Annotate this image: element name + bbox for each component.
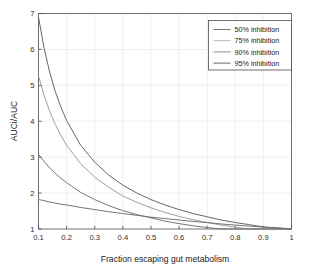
x-tick-label: 0.5 <box>146 233 157 242</box>
y-tick-label: 5 <box>30 81 34 90</box>
x-tick-label: 0.6 <box>174 233 185 242</box>
x-tick-label: 1 <box>289 233 293 242</box>
x-tick-label: 0.4 <box>118 233 129 242</box>
y-axis-title: AUCi/AUC <box>9 101 19 142</box>
y-tick-label: 7 <box>30 9 34 18</box>
legend-item-label[interactable]: 75% inhibition <box>235 36 280 45</box>
x-tick-label: 0.1 <box>33 233 44 242</box>
legend-item-label[interactable]: 90% inhibition <box>235 48 280 57</box>
legend[interactable]: 50% inhibition75% inhibition90% inhibiti… <box>209 21 292 71</box>
legend-item-label[interactable]: 50% inhibition <box>235 25 280 34</box>
y-tick-label: 2 <box>30 189 34 198</box>
y-tick-label: 3 <box>30 153 34 162</box>
figure-container: 0.10.20.30.40.50.60.70.80.91 1234567 Fra… <box>0 0 319 271</box>
x-tick-label: 0.3 <box>89 233 100 242</box>
y-tick-label: 4 <box>30 117 34 126</box>
y-tick-label: 1 <box>30 225 34 234</box>
line-chart: 0.10.20.30.40.50.60.70.80.91 1234567 Fra… <box>0 0 319 271</box>
legend-item-label[interactable]: 95% inhibition <box>235 59 280 68</box>
x-tick-label: 0.7 <box>202 233 213 242</box>
x-tick-label: 0.2 <box>61 233 72 242</box>
x-tick-label: 0.9 <box>258 233 269 242</box>
x-tick-label: 0.8 <box>230 233 241 242</box>
x-axis-title: Fraction escaping gut metabolism <box>101 254 230 264</box>
y-tick-label: 6 <box>30 45 34 54</box>
